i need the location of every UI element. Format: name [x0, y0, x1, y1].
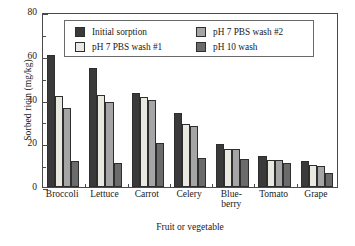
legend-swatch	[75, 27, 85, 37]
bar	[240, 159, 248, 187]
y-axis-tick-mark	[43, 58, 48, 59]
bar	[114, 163, 122, 187]
bar	[224, 149, 232, 188]
bar	[317, 166, 325, 187]
bar	[267, 160, 275, 187]
y-axis-minor-tick-mark	[43, 80, 46, 81]
legend-label: pH 10 wash	[213, 42, 257, 52]
bar	[190, 126, 198, 187]
bar	[105, 102, 113, 187]
x-axis-tick-mark	[170, 184, 171, 189]
legend-entry: Initial sorption	[75, 25, 147, 39]
y-axis-tick-mark	[43, 102, 48, 103]
bar	[47, 55, 55, 187]
bar	[198, 158, 206, 187]
chart-legend: Initial sorptionpH 7 PBS wash #1pH 7 PBS…	[64, 20, 314, 57]
legend-entry: pH 7 PBS wash #1	[75, 40, 162, 54]
y-axis-tick-label: 40	[11, 96, 37, 106]
legend-swatch	[75, 42, 85, 52]
bar	[216, 144, 224, 187]
bar	[232, 149, 240, 187]
y-axis-minor-tick-mark	[43, 123, 46, 124]
bar	[63, 108, 71, 187]
y-axis-tick-mark	[43, 14, 48, 15]
bar	[156, 143, 164, 187]
x-axis-tick-label-line: Grape	[304, 189, 327, 199]
chart-figure: Sorbed ricin (mg/kg) 020406080 BroccoliL…	[0, 0, 355, 246]
y-axis-tick-label: 60	[11, 52, 37, 62]
y-axis-tick-mark	[43, 145, 48, 146]
x-axis-tick-mark	[212, 184, 213, 189]
bar	[174, 113, 182, 187]
y-axis-minor-tick-mark	[43, 36, 46, 37]
x-axis-tick-mark	[297, 184, 298, 189]
y-axis-tick-label: 20	[11, 139, 37, 149]
legend-swatch	[196, 27, 206, 37]
x-axis-tick-mark	[254, 184, 255, 189]
x-axis-tick-label-line: berry	[191, 200, 271, 210]
legend-label: Initial sorption	[92, 27, 147, 37]
bar	[301, 161, 309, 187]
bar	[325, 173, 333, 187]
bar	[182, 124, 190, 187]
bar	[309, 165, 317, 187]
legend-entry: pH 10 wash	[196, 40, 257, 54]
x-axis-tick-label: Grape	[276, 190, 355, 200]
bar	[55, 96, 63, 187]
bar	[132, 93, 140, 187]
y-axis-tick-label: 80	[11, 8, 37, 18]
x-axis-tick-mark	[85, 184, 86, 189]
y-axis-minor-tick-mark	[43, 167, 46, 168]
bar	[148, 100, 156, 187]
legend-swatch	[196, 42, 206, 52]
bar	[140, 97, 148, 187]
legend-label: pH 7 PBS wash #2	[213, 27, 283, 37]
bar	[89, 68, 97, 187]
bar	[275, 160, 283, 187]
bar	[71, 161, 79, 187]
bar	[258, 156, 266, 187]
x-axis-title: Fruit or vegetable	[42, 222, 338, 232]
legend-entry: pH 7 PBS wash #2	[196, 25, 283, 39]
legend-label: pH 7 PBS wash #1	[92, 42, 162, 52]
x-axis-tick-mark	[128, 184, 129, 189]
bar	[97, 95, 105, 187]
bar	[283, 163, 291, 187]
